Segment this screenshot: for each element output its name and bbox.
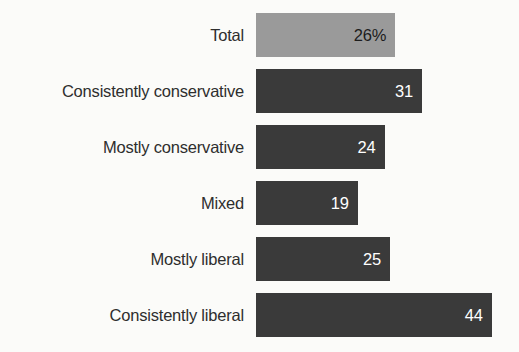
bar-category-label: Total <box>0 27 250 44</box>
bar-value-label: 19 <box>331 195 358 212</box>
bar-row: Mixed19 <box>0 181 519 225</box>
bar-track: 24 <box>250 125 519 169</box>
bar-track: 26% <box>250 13 519 57</box>
bar-value-label: 25 <box>363 251 390 268</box>
bar-track: 25 <box>250 237 519 281</box>
bar-value-label: 24 <box>358 139 385 156</box>
bar-track: 19 <box>250 181 519 225</box>
bar-category-label: Mostly conservative <box>0 139 250 156</box>
bar: 44 <box>256 293 492 337</box>
bar-category-label: Mostly liberal <box>0 251 250 268</box>
bar-chart: Total26%Consistently conservative31Mostl… <box>0 0 519 352</box>
bar-row: Mostly liberal25 <box>0 237 519 281</box>
bar-track: 31 <box>250 69 519 113</box>
bar-row: Total26% <box>0 13 519 57</box>
bar-value-label: 26% <box>354 27 395 44</box>
bar: 26% <box>256 13 395 57</box>
bar: 31 <box>256 69 422 113</box>
bar-row: Mostly conservative24 <box>0 125 519 169</box>
bar-category-label: Mixed <box>0 195 250 212</box>
bar-category-label: Consistently liberal <box>0 307 250 324</box>
bar-track: 44 <box>250 293 519 337</box>
bar-value-label: 31 <box>395 83 422 100</box>
bar: 24 <box>256 125 385 169</box>
bar-category-label: Consistently conservative <box>0 83 250 100</box>
bar-value-label: 44 <box>465 307 492 324</box>
bar-row: Consistently liberal44 <box>0 293 519 337</box>
bar-row: Consistently conservative31 <box>0 69 519 113</box>
bar: 19 <box>256 181 358 225</box>
bar: 25 <box>256 237 390 281</box>
